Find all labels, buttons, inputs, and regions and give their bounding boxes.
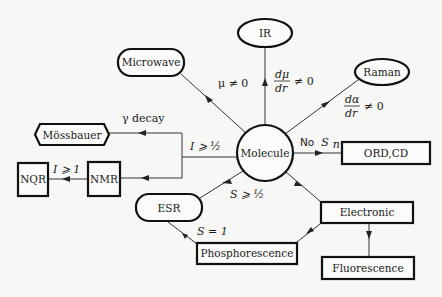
arrow-electronic bbox=[294, 181, 303, 186]
arrow-mossbauer bbox=[138, 130, 146, 136]
node-mossbauer-label: Mössbauer bbox=[43, 129, 103, 141]
label-ord-cd-subscript: n bbox=[333, 138, 340, 151]
node-fluorescence: Fluorescence bbox=[322, 257, 414, 279]
label-ord-cd-symbol: S bbox=[321, 136, 329, 149]
node-raman-label: Raman bbox=[363, 66, 401, 78]
label-microwave: μ ≠ 0 bbox=[218, 77, 248, 90]
label-ir-relation: ≠ 0 bbox=[294, 75, 314, 88]
node-nmr: NMR bbox=[88, 162, 120, 196]
label-ord-cd: No S n bbox=[300, 132, 340, 151]
arrow-ir bbox=[262, 78, 268, 86]
edge-electronic bbox=[286, 172, 321, 202]
node-fluorescence-label: Fluorescence bbox=[332, 262, 403, 274]
node-ir: IR bbox=[238, 19, 292, 47]
spectroscopy-diagram: Microwave IR Raman Mössbauer NQR NMR Mol… bbox=[0, 0, 442, 297]
node-nqr: NQR bbox=[18, 163, 48, 196]
node-phosphorescence-label: Phosphorescence bbox=[201, 247, 294, 259]
edge-phos-esr bbox=[168, 222, 197, 244]
node-esr-label: ESR bbox=[158, 202, 182, 214]
arrow-phos-esr bbox=[182, 233, 188, 239]
node-phosphorescence: Phosphorescence bbox=[197, 243, 297, 264]
label-raman-denominator: dr bbox=[345, 107, 358, 120]
label-nmr: I ⩾ ½ bbox=[189, 140, 221, 153]
label-ir-denominator: dr bbox=[275, 82, 288, 95]
label-raman-numerator: dα bbox=[345, 93, 360, 106]
node-nqr-label: NQR bbox=[20, 173, 47, 185]
node-electronic: Electronic bbox=[321, 202, 413, 223]
label-ir-numerator: dμ bbox=[275, 68, 289, 81]
node-raman: Raman bbox=[355, 59, 409, 85]
label-raman-relation: ≠ 0 bbox=[364, 100, 384, 113]
label-esr: S ⩾ ½ bbox=[230, 188, 264, 201]
node-microwave-label: Microwave bbox=[122, 56, 181, 68]
label-ord-cd-prefix: No bbox=[300, 136, 314, 148]
node-nmr-label: NMR bbox=[90, 173, 119, 185]
node-electronic-label: Electronic bbox=[340, 206, 395, 218]
arrow-nmr bbox=[141, 175, 149, 181]
label-mossbauer: γ decay bbox=[122, 112, 165, 125]
node-molecule-label: Molecule bbox=[241, 147, 290, 159]
node-mossbauer: Mössbauer bbox=[35, 124, 109, 145]
node-ord-cd: ORD,CD bbox=[342, 142, 430, 164]
node-molecule: Molecule bbox=[237, 125, 293, 181]
node-microwave: Microwave bbox=[118, 49, 184, 76]
arrow-nqr bbox=[62, 176, 70, 182]
node-ord-cd-label: ORD,CD bbox=[364, 147, 408, 159]
node-esr: ESR bbox=[136, 194, 202, 221]
arrow-phosphorescence bbox=[306, 227, 314, 234]
arrow-ord-cd bbox=[315, 150, 323, 156]
arrow-fluorescence bbox=[366, 231, 372, 239]
node-ir-label: IR bbox=[259, 27, 272, 39]
label-phos-esr: S = 1 bbox=[197, 225, 228, 238]
label-nqr: I ⩾ 1 bbox=[52, 163, 80, 176]
